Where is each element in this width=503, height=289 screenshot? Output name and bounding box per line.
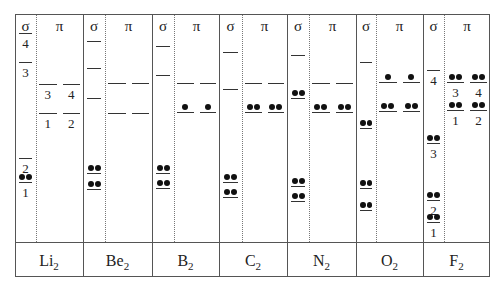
sigma-level	[87, 41, 101, 42]
sigma-level	[360, 62, 372, 63]
sigma-pi-separator	[309, 15, 310, 242]
electron-pair	[87, 165, 101, 173]
sigma-level	[156, 46, 170, 47]
electron-dot	[434, 214, 440, 220]
molecule-label: B2	[152, 248, 219, 274]
pi-level	[108, 113, 126, 114]
sigma-pi-separator	[444, 15, 445, 242]
level-label: 3	[448, 85, 464, 101]
electron-dot	[224, 189, 230, 195]
electron-pair	[268, 104, 285, 112]
pi-level	[245, 83, 262, 84]
sigma-level	[360, 128, 372, 129]
electron-dot	[95, 165, 101, 171]
pi-level	[336, 112, 354, 113]
electron-pair	[427, 214, 440, 222]
sigma-header: σ	[84, 18, 104, 35]
subscript: 2	[53, 260, 59, 272]
electron-dot	[360, 120, 366, 126]
sigma-level	[87, 189, 101, 190]
sigma-level	[19, 33, 32, 34]
subscript: 2	[393, 260, 399, 272]
electron-pair	[403, 74, 421, 82]
pi-level	[403, 111, 421, 112]
electron-dot	[367, 202, 373, 208]
electron-pair	[447, 74, 464, 82]
sigma-header: σ	[153, 18, 173, 35]
subscript: 2	[188, 260, 194, 272]
electron-pair	[379, 103, 397, 111]
table-frame	[15, 14, 490, 277]
electron-dot	[292, 193, 298, 199]
pi-level	[447, 110, 464, 111]
electron-dot	[247, 104, 253, 110]
molecule-label: F2	[423, 248, 490, 274]
level-label: 4	[18, 36, 34, 52]
pi-level	[39, 84, 57, 85]
electron-pair	[245, 104, 262, 112]
level-label: 2	[471, 113, 487, 129]
electron-pair	[312, 104, 330, 112]
pi-level	[132, 113, 150, 114]
electron-dot	[472, 74, 478, 80]
sigma-level	[427, 200, 440, 201]
mo-diagram: σπ43213412Li2σπBe2σπB2σπC2σπN2σπO2σπ4321…	[0, 0, 503, 289]
electron-dot	[479, 102, 485, 108]
electron-dot	[299, 193, 305, 199]
level-label: 2	[63, 116, 79, 132]
electron-dot	[360, 180, 366, 186]
level-label: 4	[426, 73, 442, 89]
molecule-label: Li2	[15, 248, 83, 274]
electron-dot	[224, 174, 230, 180]
electron-pair	[19, 174, 32, 182]
sigma-level	[291, 201, 305, 202]
pi-level	[200, 112, 217, 113]
electron-dot	[456, 102, 462, 108]
electron-dot	[26, 174, 32, 180]
sigma-level	[427, 222, 440, 223]
sigma-pi-separator	[36, 15, 37, 242]
electron-pair	[223, 174, 238, 182]
pi-level	[268, 112, 285, 113]
pi-level	[132, 83, 150, 84]
pi-level	[470, 82, 487, 83]
electron-pair	[336, 104, 354, 112]
electron-dot	[292, 178, 298, 184]
sigma-level	[291, 55, 305, 56]
electron-dot	[157, 180, 163, 186]
electron-dot	[434, 135, 440, 141]
sigma-level	[87, 68, 101, 69]
molecule-label: O2	[356, 248, 423, 274]
pi-level	[312, 83, 330, 84]
sigma-level	[291, 98, 305, 99]
molecule-label: Be2	[83, 248, 152, 274]
pi-level	[177, 83, 194, 84]
sigma-header: σ	[424, 18, 444, 35]
pi-level	[63, 113, 81, 114]
pi-level	[39, 113, 57, 114]
pi-level	[63, 84, 81, 85]
molecule-label: N2	[287, 248, 356, 274]
electron-dot	[299, 90, 305, 96]
electron-dot	[367, 180, 373, 186]
electron-dot	[338, 104, 344, 110]
electron-dot	[314, 104, 320, 110]
subscript: 2	[325, 260, 331, 272]
sigma-level	[19, 182, 32, 183]
subscript: 2	[458, 260, 464, 272]
pi-level	[379, 111, 397, 112]
sigma-header: σ	[221, 18, 241, 35]
column-border	[152, 14, 153, 277]
sigma-level	[360, 210, 372, 211]
electron-dot	[205, 104, 211, 110]
sigma-level	[19, 158, 32, 159]
sigma-level	[427, 143, 440, 144]
electron-dot	[472, 102, 478, 108]
electron-dot	[164, 180, 170, 186]
electron-pair	[427, 135, 440, 143]
electron-dot	[321, 104, 327, 110]
electron-pair	[156, 180, 170, 188]
column-border	[219, 14, 220, 277]
sigma-pi-separator	[376, 15, 377, 242]
electron-dot	[388, 103, 394, 109]
